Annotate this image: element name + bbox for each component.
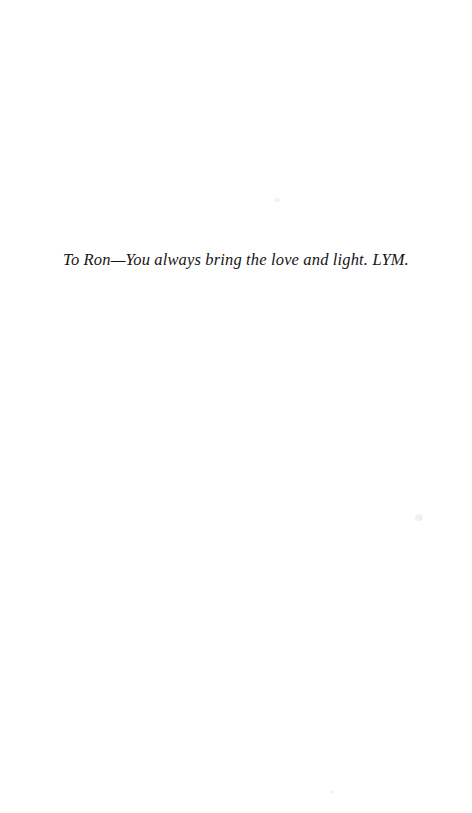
scan-artifact-speck xyxy=(329,790,334,794)
dedication-text: To Ron—You always bring the love and lig… xyxy=(0,249,472,270)
scan-artifact-speck xyxy=(415,514,423,521)
scan-artifact-speck xyxy=(274,198,280,202)
dedication-page: To Ron—You always bring the love and lig… xyxy=(0,0,472,813)
